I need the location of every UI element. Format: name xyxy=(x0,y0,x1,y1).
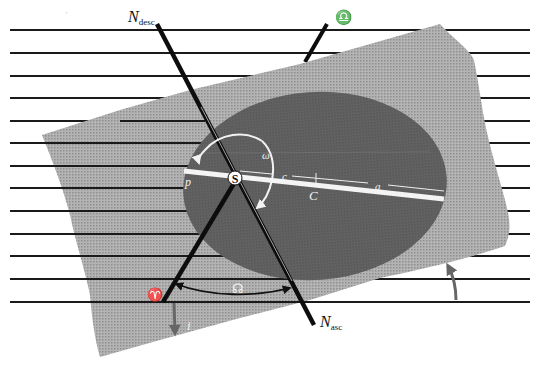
center-label: C xyxy=(309,188,318,203)
node-ascending-label: Nasc xyxy=(319,313,342,332)
stray-mark: ' xyxy=(66,11,67,17)
focal-distance-label: c xyxy=(282,170,287,182)
sun-label: S xyxy=(232,172,239,186)
inclination-label: i xyxy=(187,318,191,333)
aries-label: ♈ xyxy=(147,287,163,302)
orbital-elements-diagram: S Ndesc Nasc ♎ ♈ ☊ i ω p c C a ' xyxy=(0,0,540,367)
omega-label: ω xyxy=(262,149,270,161)
inclination-arrow-up xyxy=(448,266,456,300)
node-descending-label: Ndesc xyxy=(127,8,155,27)
inclination-arrow-down xyxy=(174,303,175,333)
ascending-node-longitude-label: ☊ xyxy=(232,281,244,296)
semi-major-axis-label: a xyxy=(375,180,381,192)
libra-label: ♎ xyxy=(335,9,352,26)
perihelion-label: p xyxy=(184,175,191,189)
